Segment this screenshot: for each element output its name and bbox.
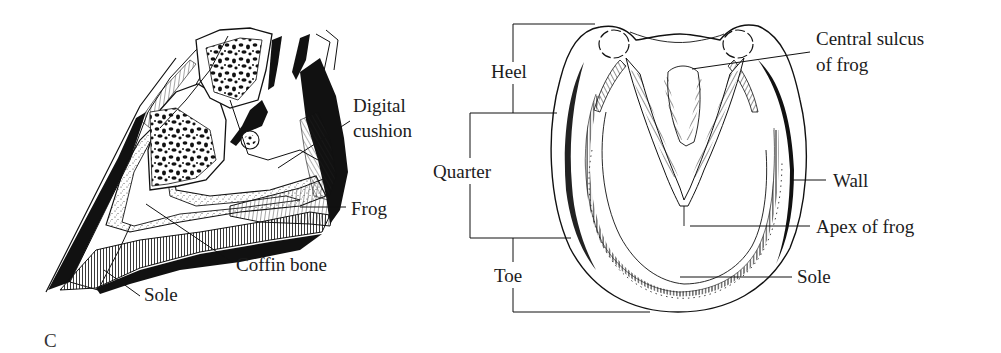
label-frog: Frog [351,198,387,219]
label-central-sulcus-line1: Central sulcus [816,28,924,49]
label-apex-of-frog: Apex of frog [816,216,914,237]
label-digital-cushion-line1: Digital [353,95,406,116]
label-coffin-bone: Coffin bone [236,254,327,275]
label-quarter: Quarter [433,161,491,182]
label-sole-sagittal: Sole [144,284,178,305]
label-digital-cushion-line2: cushion [353,120,412,141]
panel-letter: C [44,330,57,352]
label-sole-ground: Sole [797,266,831,287]
label-wall: Wall [833,170,868,191]
label-toe: Toe [494,265,522,286]
hoof-anatomy-figure: Digital cushion Frog Coffin bone Sole He… [0,0,1001,353]
label-central-sulcus-line2: of frog [816,54,868,75]
label-heel: Heel [491,61,527,82]
